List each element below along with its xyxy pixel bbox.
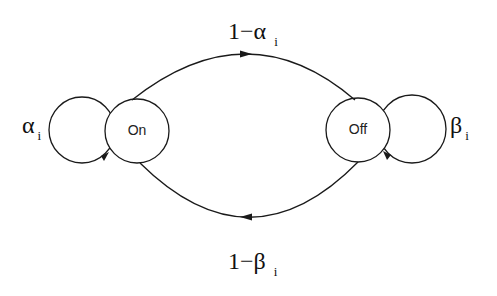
arrow-right-icon xyxy=(240,51,252,58)
on-state-label: On xyxy=(117,122,157,138)
on-to-off-arc xyxy=(132,54,355,100)
off-to-on-label: 1−βi xyxy=(228,248,277,275)
beta-self-label: βi xyxy=(450,112,469,139)
on-to-off-label: 1−αi xyxy=(228,18,278,45)
arrow-left-icon xyxy=(240,214,252,221)
alpha-self-label: αi xyxy=(22,112,41,139)
off-to-on-arc xyxy=(140,162,358,217)
off-state-label: Off xyxy=(338,121,378,137)
